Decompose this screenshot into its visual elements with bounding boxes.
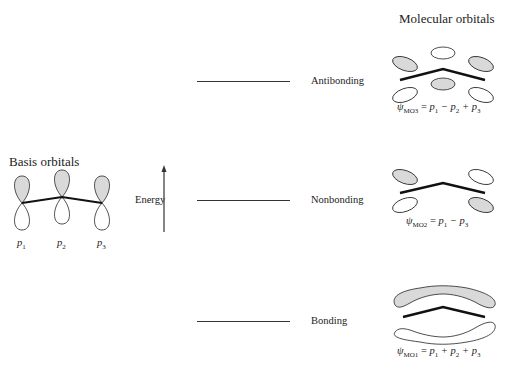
mo3-antibonding-drawing [385, 40, 505, 110]
nonbonding-level-line [197, 200, 290, 201]
basis-label-p3: p3 [97, 237, 106, 251]
basis-label-p1: p1 [17, 237, 26, 251]
antibonding-level-line [197, 81, 290, 82]
basis-label-p2: p2 [57, 237, 66, 251]
bonding-label: Bonding [311, 315, 347, 326]
mo1-equation: ψMO1 = p1 + p2 + p3 [397, 345, 480, 359]
mo3-equation: ψMO3 = p1 − p2 + p3 [397, 101, 480, 115]
mo2-nonbonding-drawing [385, 165, 505, 215]
mo1-bonding-drawing [385, 280, 505, 350]
nonbonding-label: Nonbonding [311, 194, 364, 205]
energy-arrow-icon [160, 165, 170, 233]
molecular-orbitals-title: Molecular orbitals [399, 11, 495, 27]
basis-orbitals-drawing [0, 0, 140, 260]
bonding-level-line [197, 321, 290, 322]
mo2-equation: ψMO2 = p1 − p3 [406, 215, 468, 229]
antibonding-label: Antibonding [311, 75, 364, 86]
